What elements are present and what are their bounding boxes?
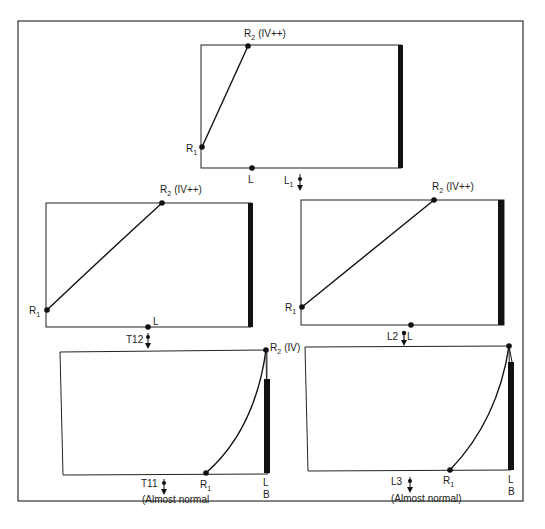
- label-r2: R2(IV++): [160, 184, 202, 197]
- point-r1: [447, 467, 453, 473]
- level-arrow-icon: [407, 477, 413, 493]
- label-r1: R1: [200, 479, 211, 492]
- level-arrow-icon: [161, 479, 167, 495]
- label-l: L: [263, 477, 269, 488]
- point-r1: [203, 470, 209, 476]
- label-r1: R1: [443, 475, 454, 488]
- label-r2: R2(IV++): [244, 28, 286, 41]
- point-r2: [506, 343, 512, 349]
- label-r1: R1: [186, 143, 197, 156]
- panel-box: [301, 200, 504, 325]
- panel-middle-left: R2(IV++) R1 L T12: [29, 184, 253, 349]
- point-l: [249, 165, 255, 171]
- point-r2: [263, 347, 269, 353]
- point-r2: [245, 43, 251, 49]
- label-l: L: [153, 316, 159, 327]
- label-l: L: [407, 331, 413, 342]
- motion-line: [302, 200, 434, 307]
- point-r1: [199, 144, 205, 150]
- label-level: T11: [141, 478, 158, 489]
- label-level: T12: [126, 334, 144, 345]
- motion-line: [202, 46, 248, 147]
- label-l: L: [508, 474, 514, 485]
- panel-box: [46, 203, 251, 327]
- level-arrow-icon: [145, 333, 151, 349]
- label-r1: R1: [285, 302, 296, 315]
- motion-line: [206, 350, 266, 473]
- point-r1: [44, 307, 50, 313]
- label-level: L1: [284, 175, 294, 188]
- panel-middle-right: R2(IV++) R1 L L2: [285, 181, 504, 346]
- point-l: [408, 322, 414, 328]
- label-b: B: [508, 486, 515, 497]
- panel-box: [60, 350, 268, 475]
- note-almost-normal: (Almost normal): [391, 493, 462, 504]
- label-r2: R2(IV++): [432, 181, 474, 194]
- point-r1: [299, 304, 305, 310]
- level-arrow-icon: [297, 174, 303, 191]
- thick-bar: [508, 362, 514, 470]
- note-almost-normal: (Almost normal: [142, 494, 209, 505]
- point-r2: [431, 197, 437, 203]
- label-r1: R1: [29, 305, 40, 318]
- point-r2: [159, 200, 165, 206]
- panel-box: [305, 346, 511, 471]
- thick-bar: [398, 45, 403, 168]
- motion-line: [47, 203, 162, 310]
- outer-frame: [18, 21, 523, 501]
- thick-bar: [264, 379, 270, 473]
- thick-bar: [248, 203, 253, 327]
- thick-bar: [498, 200, 504, 325]
- panel-bottom-left: R2(IV) R1 L B T11 (Almost normal: [60, 342, 300, 505]
- label-r2: R2(IV): [270, 342, 300, 355]
- panel-box: [201, 45, 401, 168]
- range-of-motion-diagram: R2(IV++) R1 L L1 R2(IV++) R1 L T12: [0, 0, 545, 529]
- point-l: [145, 324, 151, 330]
- label-b: B: [263, 489, 270, 500]
- label-level: L2: [387, 331, 399, 342]
- panel-top: R2(IV++) R1 L L1: [186, 28, 403, 191]
- panel-bottom-right: R1 L B L3 (Almost normal): [305, 343, 515, 504]
- label-l: L: [248, 174, 254, 185]
- label-level: L3: [391, 476, 403, 487]
- motion-line: [450, 346, 509, 470]
